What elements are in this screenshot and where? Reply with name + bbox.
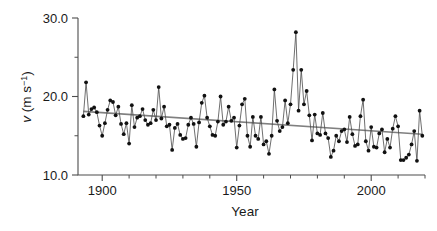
data-point [267,152,271,156]
data-point [100,134,104,138]
data-point [418,109,422,113]
axis-ticks [72,18,425,181]
tick-labels: 10.020.030.0190019502000 [43,11,386,199]
data-point [87,113,91,117]
data-point [275,119,279,123]
axes [78,18,425,175]
data-point [248,145,252,149]
data-point [283,99,287,103]
data-point [348,115,352,119]
data-series-line [83,32,422,161]
data-point [321,111,325,115]
chart-container: 10.020.030.0190019502000 Year v (m s−1) [0,0,437,231]
data-point [359,114,363,118]
data-point [157,85,161,89]
x-tick-label: 2000 [357,183,386,198]
data-point [324,131,328,135]
data-point [162,105,166,109]
data-point-markers [81,30,424,163]
data-point [95,110,99,114]
data-point [369,125,373,129]
data-point [388,146,392,150]
data-point [264,139,268,143]
data-point [356,142,360,146]
data-point [170,148,174,152]
data-point [203,94,207,98]
data-point [221,123,225,127]
x-axis-title: Year [231,204,259,219]
data-point [310,139,314,143]
data-point [289,102,293,106]
data-point [92,106,96,110]
data-point [246,134,250,138]
data-point [232,116,236,120]
data-point [168,123,172,127]
data-point [200,101,204,105]
data-point [141,107,145,111]
x-tick-label: 1900 [88,183,117,198]
data-point [186,123,190,127]
data-point [281,125,285,129]
data-point [176,122,180,126]
data-point [291,68,295,72]
data-point [305,89,309,93]
data-point [415,159,419,163]
y-tick-label: 20.0 [43,89,68,104]
data-point [205,116,209,120]
data-point [111,100,115,104]
data-point [377,131,381,135]
data-point [345,140,349,144]
data-point [297,109,301,113]
data-point [299,68,303,72]
y-axis-unit-close: ) [19,71,34,76]
data-point [197,121,201,125]
data-point [127,142,131,146]
data-point [313,113,317,117]
series-polyline [83,32,422,161]
data-point [229,119,233,123]
data-point [106,108,110,112]
data-point [173,126,177,130]
data-point [143,118,147,122]
data-point [254,134,258,138]
data-point [326,136,330,140]
y-axis-unit-open: (m s [19,86,34,116]
data-point [394,114,398,118]
x-tick-label: 1950 [222,183,251,198]
data-point [407,153,411,157]
data-point [380,128,384,132]
data-point [286,121,290,125]
y-axis-exponent: −1 [19,76,29,86]
data-point [133,125,137,129]
data-point [412,129,416,133]
y-tick-label: 10.0 [43,168,68,183]
data-point [294,30,298,34]
data-point [364,139,368,143]
data-point [302,102,306,106]
data-point [259,115,263,119]
data-point [114,113,118,117]
data-point [189,116,193,120]
data-point [216,120,220,124]
data-point [243,97,247,101]
data-point [262,142,266,146]
data-point [219,95,223,99]
data-point [208,124,212,128]
data-point [149,121,153,125]
data-point [383,150,387,154]
data-point [184,136,188,140]
data-point [84,80,88,84]
data-point [350,132,354,136]
data-point [235,146,239,150]
data-point [404,156,408,160]
data-point [256,137,260,141]
data-point [420,134,424,138]
data-point [329,155,333,159]
data-point [238,124,242,128]
data-point [125,121,129,125]
data-point [307,113,311,117]
data-point [154,118,158,122]
data-point [342,128,346,132]
data-point [130,103,134,107]
data-point [192,122,196,126]
